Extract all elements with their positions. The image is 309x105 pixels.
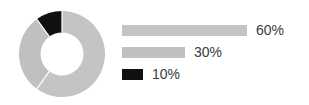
legend-label-60: 60% [256,23,284,37]
legend-item-10[interactable]: 10% [122,68,180,80]
legend-swatch-10 [122,69,143,80]
legend-label-30: 30% [194,45,222,59]
legend-item-30[interactable]: 30% [122,46,222,58]
legend-label-10: 10% [152,67,180,81]
chart-legend: 60% 30% 10% [122,24,302,90]
donut-chart [18,10,106,98]
legend-swatch-60 [122,25,247,36]
chart-container: 60% 30% 10% [0,0,309,105]
legend-swatch-30 [122,47,185,58]
donut-chart-svg [18,10,106,98]
legend-item-60[interactable]: 60% [122,24,284,36]
